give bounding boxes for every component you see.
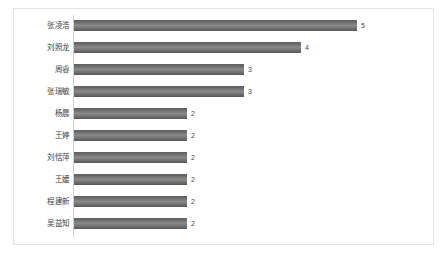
bar-row[interactable]: 吴益知 2 bbox=[14, 213, 435, 235]
bar-fill bbox=[74, 42, 301, 53]
bar-fill bbox=[74, 130, 187, 141]
bar-fill bbox=[74, 174, 187, 185]
bar-row[interactable]: 刘照龙 4 bbox=[14, 37, 435, 59]
bar-chart-plot-area: 张凌浩 5 刘照龙 4 周睿 3 张瑞敏 3 bbox=[14, 9, 435, 246]
bar-value-label: 2 bbox=[191, 169, 195, 191]
bar-category-label: 张凌浩 bbox=[9, 15, 69, 37]
bar-value-label: 2 bbox=[191, 147, 195, 169]
bar-track bbox=[74, 130, 187, 141]
bar-track bbox=[74, 20, 357, 31]
bar-category-label: 杨晨 bbox=[9, 103, 69, 125]
bar-track bbox=[74, 108, 187, 119]
bar-value-label: 2 bbox=[191, 213, 195, 235]
bar-row[interactable]: 王婷 2 bbox=[14, 125, 435, 147]
bar-track bbox=[74, 218, 187, 229]
bar-track bbox=[74, 152, 187, 163]
bar-value-label: 5 bbox=[361, 15, 365, 37]
bar-fill bbox=[74, 108, 187, 119]
bar-value-label: 2 bbox=[191, 191, 195, 213]
bar-track bbox=[74, 174, 187, 185]
bar-track bbox=[74, 196, 187, 207]
bar-value-label: 3 bbox=[248, 59, 252, 81]
bar-value-label: 2 bbox=[191, 103, 195, 125]
bar-track bbox=[74, 64, 244, 75]
bar-fill bbox=[74, 218, 187, 229]
bar-category-label: 张瑞敏 bbox=[9, 81, 69, 103]
bar-row[interactable]: 杨晨 2 bbox=[14, 103, 435, 125]
bar-fill bbox=[74, 196, 187, 207]
bar-value-label: 2 bbox=[191, 125, 195, 147]
bar-category-label: 程建新 bbox=[9, 191, 69, 213]
bar-fill bbox=[74, 152, 187, 163]
bar-value-label: 4 bbox=[305, 37, 309, 59]
bar-track bbox=[74, 86, 244, 97]
bar-row[interactable]: 张瑞敏 3 bbox=[14, 81, 435, 103]
bar-category-label: 刘恬萍 bbox=[9, 147, 69, 169]
bar-row[interactable]: 张凌浩 5 bbox=[14, 15, 435, 37]
bar-value-label: 3 bbox=[248, 81, 252, 103]
bar-row[interactable]: 刘恬萍 2 bbox=[14, 147, 435, 169]
bar-fill bbox=[74, 86, 244, 97]
bar-fill bbox=[74, 64, 244, 75]
bar-category-label: 王婷 bbox=[9, 125, 69, 147]
bar-category-label: 周睿 bbox=[9, 59, 69, 81]
bar-row[interactable]: 程建新 2 bbox=[14, 191, 435, 213]
chart-frame: 张凌浩 5 刘照龙 4 周睿 3 张瑞敏 3 bbox=[13, 8, 434, 245]
bar-row[interactable]: 周睿 3 bbox=[14, 59, 435, 81]
bar-category-label: 吴益知 bbox=[9, 213, 69, 235]
bar-row[interactable]: 王媛 2 bbox=[14, 169, 435, 191]
bar-fill bbox=[74, 20, 357, 31]
bar-category-label: 刘照龙 bbox=[9, 37, 69, 59]
bar-category-label: 王媛 bbox=[9, 169, 69, 191]
bar-track bbox=[74, 42, 301, 53]
